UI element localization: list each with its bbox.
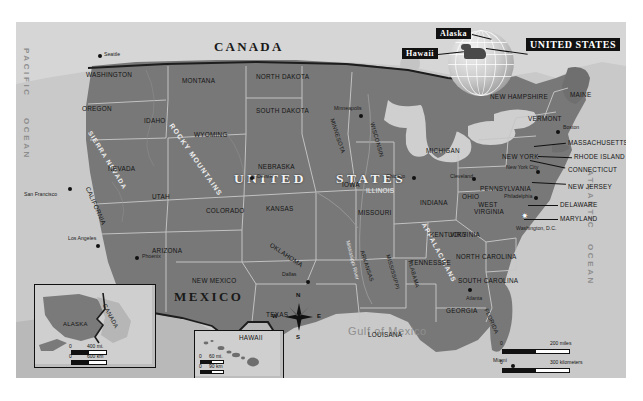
city-dot-dallas[interactable] (306, 280, 310, 284)
state-label-ohio: OHIO (462, 194, 479, 200)
state-label-massachusetts: MASSACHUSETTS (568, 140, 626, 146)
city-label-philadelphia: Philadelphia (504, 194, 532, 199)
state-label-idaho: IDAHO (144, 118, 166, 124)
state-label-new-jersey: NEW JERSEY (568, 184, 612, 190)
state-label-illinois: ILLINOIS (366, 188, 394, 194)
city-label-san-francisco: San Francisco (24, 192, 57, 197)
state-label-south-dakota: SOUTH DAKOTA (256, 108, 309, 114)
state-label-maine: MAINE (570, 92, 592, 98)
map-canvas[interactable]: PACIFIC OCEAN ATLANTIC OCEAN CANADA UNIT… (16, 22, 626, 378)
state-label-new-york: NEW YORK (502, 154, 539, 160)
state-label-delaware: DELAWARE (560, 202, 597, 208)
state-label-colorado: COLORADO (206, 208, 245, 214)
city-label-denver: Denver (257, 174, 274, 179)
ocean-label-atlantic-ocean: OCEAN (586, 244, 594, 286)
leader-line-maryland (524, 219, 558, 220)
callout-label-hawaii: Hawaii (402, 48, 438, 59)
state-label-rhode-island: RHODE ISLAND (574, 154, 625, 160)
map-title-plate: UNITED STATES (526, 38, 620, 51)
country-label-mexico: MEXICO (174, 290, 243, 303)
city-dot-new-york-city[interactable] (536, 170, 540, 174)
city-label-boston: Boston (563, 125, 579, 130)
city-label-los-angeles: Los Angeles (68, 236, 96, 241)
state-label-kansas: KANSAS (266, 206, 293, 212)
inset-hawaii-miles-zero: 0 (199, 353, 202, 359)
state-label-virginia: VIRGINIA (450, 232, 480, 238)
scale-main-km-zero: 0 (500, 359, 503, 365)
state-label-wyoming: WYOMING (194, 132, 228, 138)
scale-bar-main: 0 200 miles 0 300 kilometers (500, 340, 610, 378)
ocean-label-pacific: PACIFIC (22, 48, 30, 98)
city-dot-atlanta[interactable] (468, 288, 472, 292)
inset-hawaii-km-zero: 0 (199, 363, 202, 369)
state-label-washington: WASHINGTON (86, 72, 132, 78)
city-label-cleveland: Cleveland (450, 174, 473, 179)
compass-rose: N E S W (282, 300, 316, 334)
compass-label-s: S (296, 334, 300, 340)
state-label-michigan: MICHIGAN (426, 148, 460, 154)
city-dot-los-angeles[interactable] (96, 244, 100, 248)
state-label-iowa: IOWA (342, 182, 360, 188)
callout-label-alaska: Alaska (436, 28, 471, 39)
scale-main-miles-label: 200 miles (550, 340, 571, 346)
city-dot-phoenix[interactable] (135, 256, 139, 260)
city-label-washington-dc: Washington, D.C. (516, 226, 556, 231)
state-label-maryland: MARYLAND (560, 216, 597, 222)
city-label-seattle: Seattle (104, 52, 120, 57)
city-dot-denver[interactable] (250, 176, 254, 180)
country-label-canada: CANADA (214, 40, 284, 53)
state-label-connecticut: CONNECTICUT (568, 167, 617, 173)
state-label-north-dakota: NORTH DAKOTA (256, 74, 309, 80)
state-label-new-hampshire: NEW HAMPSHIRE (490, 94, 548, 100)
inset-alaska-km-label: 600 km (87, 353, 103, 359)
city-dot-seattle[interactable] (98, 54, 102, 58)
city-label-atlanta: Atlanta (466, 296, 482, 301)
capital-star-icon: ✷ (521, 212, 529, 221)
city-label-minneapolis: Minneapolis (334, 106, 362, 111)
inset-alaska-miles-zero: 0 (69, 343, 72, 349)
inset-hawaii-km-label: 90 km (209, 363, 223, 369)
city-label-chicago: Chicago (386, 174, 405, 179)
state-label-new-mexico: NEW MEXICO (192, 278, 236, 284)
ocean-label-pacific-ocean: OCEAN (22, 118, 30, 160)
state-label-pennsylvania: PENNSYLVANIA (480, 186, 531, 192)
state-label-indiana: INDIANA (420, 200, 448, 206)
state-label-north-carolina: NORTH CAROLINA (456, 254, 517, 260)
state-label-tennessee: TENNESSEE (410, 260, 451, 266)
globe-icon (448, 30, 514, 96)
inset-map-alaska[interactable]: ALASKA CANADA 0 400 mi. 0 600 km (34, 284, 156, 368)
state-label-oregon: OREGON (82, 106, 112, 112)
state-label-nevada: NEVADA (108, 166, 135, 172)
state-label-louisana: LOUISANA (368, 332, 402, 338)
inset-alaska-title: ALASKA (63, 321, 88, 327)
city-label-phoenix: Phoenix (142, 254, 161, 259)
inset-map-hawaii[interactable]: HAWAII 0 60 mi. 0 90 km (194, 330, 284, 378)
map-page: PACIFIC OCEAN ATLANTIC OCEAN CANADA UNIT… (0, 0, 643, 401)
leader-line-delaware (528, 205, 558, 206)
city-dot-chicago[interactable] (412, 176, 416, 180)
inset-hawaii-title: HAWAII (239, 335, 263, 341)
state-label-georgia: GEORGIA (446, 308, 478, 314)
compass-label-n: N (296, 292, 300, 298)
city-dot-boston[interactable] (556, 130, 560, 134)
state-label-utah: UTAH (152, 194, 170, 200)
state-label-nebraska: NEBRASKA (258, 164, 295, 170)
state-label-montana: MONTANA (182, 78, 215, 84)
state-label-west-virginia: WEST VIRGINIA (474, 202, 502, 215)
inset-alaska-km-zero: 0 (69, 353, 72, 359)
city-label-dallas: Dallas (282, 272, 296, 277)
state-label-missouri: MISSOURI (358, 210, 392, 216)
city-dot-philadelphia[interactable] (534, 196, 538, 200)
city-dot-san-francisco[interactable] (68, 187, 72, 191)
scale-main-km-label: 300 kilometers (550, 359, 583, 365)
state-label-south-carolina: SOUTH CAROLINA (458, 278, 518, 284)
inset-alaska-miles-label: 400 mi. (87, 343, 103, 349)
compass-label-e: E (317, 313, 321, 319)
state-label-vermont: VERMONT (528, 116, 562, 122)
scale-main-miles-zero: 0 (500, 340, 503, 346)
compass-label-w: W (272, 313, 278, 319)
city-dot-minneapolis[interactable] (359, 114, 363, 118)
inset-hawaii-miles-label: 60 mi. (209, 353, 223, 359)
city-label-new-york-city: New York City (506, 165, 538, 170)
